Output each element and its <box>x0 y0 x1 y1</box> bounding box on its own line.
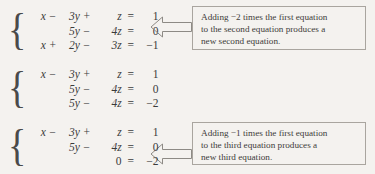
equation-row: x − 3y + z = 1 <box>31 67 159 82</box>
equation-row: x − 3y + z = 1 <box>31 125 159 140</box>
eq-z-term: 3z <box>91 38 122 53</box>
annotation-line: new second equation. <box>201 35 358 47</box>
equation-list: x − 3y + z = 1 5y − 4z = 0 0 = −2 <box>31 124 159 169</box>
left-brace-icon: { <box>8 123 26 169</box>
left-brace-icon: { <box>8 7 26 53</box>
derivation-step-2: { x − 3y + z = 1 5y − 4z = 0 <box>0 58 375 116</box>
equation-row: 5y − 4z = 0 <box>31 140 159 155</box>
equation-system-1: { x − 3y + z = 1 5y − 4z = 0 x + <box>8 8 159 53</box>
eq-z-term: z <box>91 9 122 24</box>
eq-z-term: 4z <box>91 96 122 111</box>
equation-row: x − 3y + z = 1 <box>31 9 159 24</box>
equation-row: 0 = −2 <box>31 154 159 169</box>
eq-rhs: 1 <box>135 67 159 82</box>
eq-rhs: −2 <box>135 154 159 169</box>
equation-row: 5y − 4z = 0 <box>31 82 159 97</box>
eq-x-term: x + <box>31 38 57 53</box>
eq-y-term: 3y + <box>57 125 91 140</box>
derivation-step-3: { x − 3y + z = 1 5y − 4z = 0 0 <box>0 116 375 174</box>
derivation-step-1: { x − 3y + z = 1 5y − 4z = 0 x + <box>0 0 375 58</box>
eq-rhs: 0 <box>135 140 159 155</box>
annotation-box-1: Adding −2 times the first equation to th… <box>192 6 366 50</box>
eq-equals: = <box>122 67 135 82</box>
eq-zero-lhs: 0 <box>31 154 122 169</box>
eq-z-term: z <box>91 67 122 82</box>
eq-equals: = <box>122 96 135 111</box>
equation-system-2: { x − 3y + z = 1 5y − 4z = 0 <box>8 66 159 111</box>
eq-rhs: −2 <box>135 96 159 111</box>
eq-x-term: x − <box>31 9 57 24</box>
eq-y-term: 2y − <box>57 38 91 53</box>
figure-root: { x − 3y + z = 1 5y − 4z = 0 x + <box>0 0 375 174</box>
eq-z-term: 4z <box>91 24 122 39</box>
eq-equals: = <box>122 154 135 169</box>
eq-equals: = <box>122 82 135 97</box>
left-block-arrow-icon <box>150 15 192 39</box>
eq-y-term: 5y − <box>57 140 91 155</box>
eq-x-term: x − <box>31 125 57 140</box>
eq-y-term: 5y − <box>57 96 91 111</box>
left-brace-icon: { <box>8 65 26 111</box>
eq-equals: = <box>122 38 135 53</box>
eq-y-term: 5y − <box>57 24 91 39</box>
eq-z-term: 4z <box>91 140 122 155</box>
eq-z-term: 4z <box>91 82 122 97</box>
equation-list: x − 3y + z = 1 5y − 4z = 0 x + 2y − 3z <box>31 8 159 53</box>
eq-rhs: 0 <box>135 82 159 97</box>
eq-rhs: −1 <box>135 38 159 53</box>
eq-equals: = <box>122 24 135 39</box>
eq-equals: = <box>122 125 135 140</box>
eq-y-term: 3y + <box>57 67 91 82</box>
equation-system-3: { x − 3y + z = 1 5y − 4z = 0 0 <box>8 124 159 169</box>
eq-z-term: z <box>91 125 122 140</box>
eq-y-term: 5y − <box>57 82 91 97</box>
equation-row: 5y − 4z = 0 <box>31 24 159 39</box>
eq-equals: = <box>122 140 135 155</box>
eq-y-term: 3y + <box>57 9 91 24</box>
eq-rhs: 1 <box>135 125 159 140</box>
eq-equals: = <box>122 9 135 24</box>
eq-x-term: x − <box>31 67 57 82</box>
annotation-line: to the second equation produces a <box>201 23 358 35</box>
equation-row: 5y − 4z = −2 <box>31 96 159 111</box>
equation-list: x − 3y + z = 1 5y − 4z = 0 5y − 4z <box>31 66 159 111</box>
equation-row: x + 2y − 3z = −1 <box>31 38 159 53</box>
annotation-line: Adding −2 times the first equation <box>201 11 358 23</box>
